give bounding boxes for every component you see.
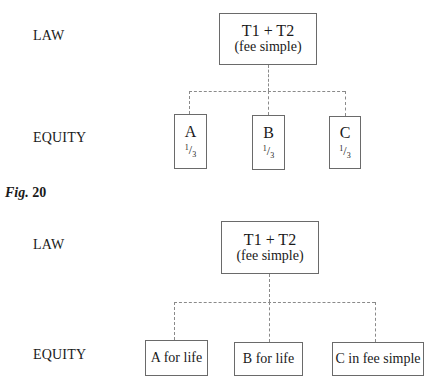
legal-owner-subtitle: (fee simple)	[236, 249, 303, 264]
law-row-label-bottom: LAW	[33, 237, 64, 253]
legal-owner-title: T1 + T2	[244, 232, 296, 249]
legal-owner-box-top: T1 + T2 (fee simple)	[219, 13, 317, 65]
legal-owner-box-bottom: T1 + T2 (fee simple)	[221, 221, 319, 274]
law-row-label-top: LAW	[33, 28, 64, 44]
share-fraction: 1/3	[263, 145, 274, 160]
share-numerator: 1	[339, 144, 343, 153]
equity-row-label-bottom: EQUITY	[33, 347, 86, 363]
connector-branch-b-bottom	[269, 302, 270, 342]
figure-caption-number: 20	[32, 185, 46, 200]
connector-branch-a-bottom	[174, 302, 175, 340]
interest-box-c: C in fee simple	[332, 342, 424, 376]
connector-branch-b-top	[268, 91, 269, 115]
figure-caption: Fig. 20	[5, 185, 46, 201]
connector-branch-c-bottom	[375, 302, 376, 342]
beneficiary-name: C	[340, 125, 351, 142]
share-denominator: 3	[192, 150, 196, 159]
interest-label: A for life	[151, 351, 202, 366]
figure-caption-prefix: Fig.	[5, 185, 29, 200]
connector-trunk-bottom	[269, 274, 270, 302]
beneficiary-box-c: C 1/3	[329, 116, 361, 169]
connector-bar-top	[189, 91, 345, 92]
connector-branch-c-top	[345, 91, 346, 116]
interest-box-b: B for life	[234, 342, 303, 376]
beneficiary-box-a: A 1/3	[174, 114, 207, 169]
beneficiary-name: B	[263, 125, 274, 142]
connector-trunk-top	[268, 65, 269, 91]
equity-row-label-top: EQUITY	[33, 130, 86, 146]
interest-box-a: A for life	[145, 340, 208, 376]
beneficiary-name: A	[185, 124, 197, 141]
connector-branch-a-top	[189, 91, 190, 114]
connector-bar-bottom	[174, 302, 375, 303]
share-denominator: 3	[347, 151, 351, 160]
beneficiary-box-b: B 1/3	[252, 115, 285, 170]
share-numerator: 1	[185, 143, 189, 152]
interest-label: B for life	[243, 352, 294, 367]
share-numerator: 1	[263, 144, 267, 153]
share-fraction: 1/3	[339, 145, 350, 160]
legal-owner-subtitle: (fee simple)	[234, 40, 301, 55]
legal-owner-title: T1 + T2	[242, 23, 294, 40]
share-fraction: 1/3	[185, 144, 196, 159]
interest-label: C in fee simple	[335, 352, 420, 367]
share-denominator: 3	[270, 151, 274, 160]
